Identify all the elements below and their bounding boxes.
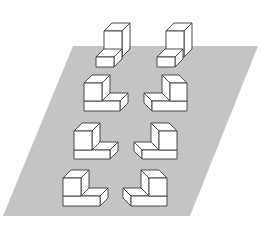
slab-front-face [142,150,177,159]
slab-front-face [74,150,110,159]
isometric-blocks-diagram [0,0,261,232]
slab-front-face [96,57,114,67]
cube-front-face [170,83,187,101]
slab-front-face [63,196,100,206]
slab-front-face [131,196,167,206]
slab-front-face [157,57,175,67]
slab-front-face [152,101,187,111]
cube-front-face [74,131,92,150]
slab-front-face [84,101,120,111]
cube-front-face [159,131,177,150]
diagram-canvas [0,0,261,232]
cube-front-face [149,178,167,196]
cube-front-face [63,178,81,196]
cube-front-face [84,83,102,101]
